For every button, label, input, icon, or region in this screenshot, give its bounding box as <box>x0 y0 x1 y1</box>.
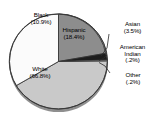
pie-chart-graphic <box>0 0 157 123</box>
pie-chart: Black (10.9%) Hispanic (18.4%) White (66… <box>0 0 157 123</box>
